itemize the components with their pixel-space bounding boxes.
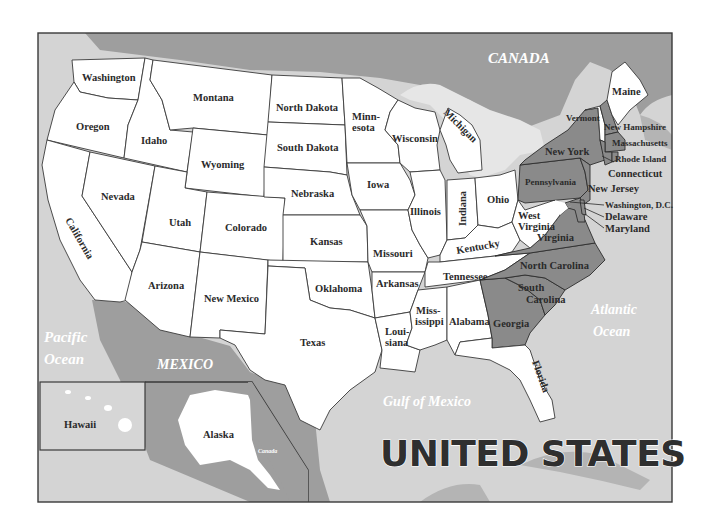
label-illinois: Illinois: [410, 206, 441, 217]
label-iowa: Iowa: [367, 179, 390, 190]
label-minnesota-1: Minn-: [352, 111, 381, 122]
label-mississippi-2: issippi: [415, 316, 444, 327]
label-oregon: Oregon: [76, 121, 110, 132]
hawaii-island: [104, 405, 112, 411]
hawaii-inset-bg: [40, 382, 145, 450]
label-georgia: Georgia: [493, 318, 530, 329]
label-atlantic-2: Ocean: [593, 324, 631, 339]
label-kansas: Kansas: [310, 236, 343, 247]
label-utah: Utah: [169, 217, 191, 228]
label-alaska: Alaska: [203, 429, 235, 440]
us-map: CANADA MEXICO Canada Pacific Ocean Atlan…: [0, 0, 709, 530]
label-mexico: MEXICO: [156, 357, 213, 372]
label-colorado: Colorado: [225, 222, 267, 233]
label-nebraska: Nebraska: [291, 188, 335, 199]
hawaii-island: [118, 418, 132, 432]
label-maryland: Maryland: [605, 223, 650, 234]
hawaii-island: [65, 390, 71, 394]
map-title: UNITED STATES: [380, 433, 686, 474]
label-new-mexico: New Mexico: [204, 293, 259, 304]
label-ohio: Ohio: [487, 194, 509, 205]
label-montana: Montana: [193, 92, 235, 103]
label-nevada: Nevada: [101, 191, 136, 202]
label-new-jersey: New Jersey: [588, 183, 640, 194]
label-rhode-island: Rhode Island: [615, 154, 666, 164]
label-atlantic-1: Atlantic: [590, 302, 638, 317]
label-virginia: Virginia: [537, 232, 575, 243]
label-washington-dc: Washington, D.C.: [605, 200, 673, 210]
label-louisiana-2: siana: [385, 337, 409, 348]
label-missouri: Missouri: [373, 248, 413, 259]
label-pacific-1: Pacific: [44, 329, 88, 345]
label-south-carolina-2: Carolina: [526, 294, 566, 305]
label-west-virginia-2: Virginia: [518, 221, 556, 232]
state-north-dakota[interactable]: [268, 75, 345, 125]
label-connecticut: Connecticut: [608, 168, 663, 179]
label-gulf: Gulf of Mexico: [383, 394, 471, 409]
label-mississippi-1: Miss-: [416, 305, 441, 316]
label-canada: CANADA: [488, 50, 550, 66]
label-south-carolina-1: South: [518, 282, 544, 293]
label-south-dakota: South Dakota: [277, 142, 339, 153]
label-massachusetts: Massachusetts: [612, 138, 668, 148]
label-vermont: Vermont: [566, 113, 600, 123]
label-oklahoma: Oklahoma: [315, 283, 363, 294]
label-arizona: Arizona: [148, 280, 185, 291]
label-texas: Texas: [300, 337, 325, 348]
label-pennsylvania: Pennsylvania: [525, 177, 577, 187]
label-tennessee: Tennessee: [443, 271, 488, 282]
label-indiana: Indiana: [457, 190, 468, 226]
label-maine: Maine: [612, 86, 641, 97]
label-wisconsin: Wisconsin: [392, 133, 438, 144]
label-north-carolina: North Carolina: [520, 260, 590, 271]
label-hawaii: Hawaii: [64, 419, 96, 430]
hawaii-island: [85, 396, 91, 400]
label-new-york: New York: [545, 146, 589, 157]
label-wyoming: Wyoming: [201, 159, 245, 170]
label-louisiana-1: Loui-: [385, 326, 410, 337]
label-delaware: Delaware: [605, 211, 648, 222]
label-minnesota-2: esota: [352, 122, 375, 133]
label-arkansas: Arkansas: [376, 278, 419, 289]
label-canada-inset: Canada: [258, 448, 277, 454]
label-alabama: Alabama: [449, 316, 491, 327]
label-north-dakota: North Dakota: [276, 102, 339, 113]
label-idaho: Idaho: [141, 135, 167, 146]
label-washington: Washington: [82, 72, 136, 83]
label-west-virginia-1: West: [518, 210, 541, 221]
label-pacific-2: Ocean: [44, 351, 84, 367]
label-new-hampshire: New Hampshire: [604, 122, 666, 132]
